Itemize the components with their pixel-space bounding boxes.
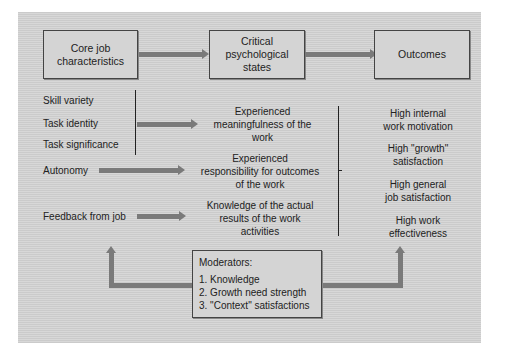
core-job-characteristics-box: Core job characteristics — [43, 30, 138, 79]
critical-psychological-states-label: Critical psychological states — [225, 35, 288, 74]
feedback-from-job: Feedback from job — [43, 210, 126, 223]
outcomes-box: Outcomes — [374, 30, 470, 79]
core-job-characteristics-label: Core job characteristics — [57, 42, 124, 68]
moderator-right-arrowhead — [395, 246, 405, 253]
moderator-right-vertical — [398, 253, 403, 287]
outcome-growth: High "growth" satisfaction — [365, 142, 471, 168]
state-meaningfulness: Experienced meaningfulness of the work — [195, 105, 330, 144]
critical-psychological-states-box: Critical psychological states — [209, 30, 305, 79]
moderator-left-arrowhead — [106, 246, 116, 253]
moderator-item: 2. Growth need strength — [199, 286, 315, 299]
moderators-box: Moderators: 1. Knowledge 2. Growth need … — [192, 250, 322, 318]
outcome-effectiveness: High work effectiveness — [365, 214, 471, 240]
moderator-item: 3. "Context" satisfactions — [199, 299, 315, 312]
moderator-right-horizontal — [321, 283, 403, 288]
outcome-motivation: High internal work motivation — [365, 107, 471, 133]
autonomy: Autonomy — [43, 164, 88, 177]
moderator-item: 1. Knowledge — [199, 273, 315, 286]
skill-variety: Skill variety — [43, 94, 94, 107]
bracket-first-three — [135, 90, 136, 155]
outcomes-label: Outcomes — [398, 48, 446, 61]
task-identity: Task identity — [43, 117, 98, 130]
arrow-states-to-outcomes — [305, 52, 371, 57]
state-knowledge: Knowledge of the actual results of the w… — [190, 199, 330, 238]
bracket-tip — [339, 170, 342, 171]
moderator-left-horizontal — [109, 283, 193, 288]
state-responsibility: Experienced responsibility for outcomes … — [190, 152, 330, 191]
moderator-left-vertical — [109, 253, 114, 287]
arrow-core-to-states — [139, 52, 203, 57]
bracket-states — [338, 106, 339, 236]
task-significance: Task significance — [43, 138, 119, 151]
arrow-autonomy — [99, 168, 179, 173]
outcome-job-satisfaction: High general job satisfaction — [365, 178, 471, 204]
arrow-meaningfulness — [137, 122, 192, 127]
arrow-feedback — [137, 214, 180, 219]
moderators-title: Moderators: — [199, 256, 315, 269]
